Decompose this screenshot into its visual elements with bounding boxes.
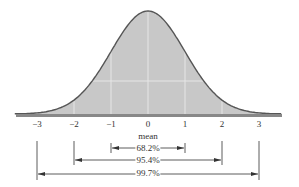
x-tick-label: 0	[146, 119, 151, 129]
x-tick-label: 2	[220, 119, 225, 129]
x-tick-label: −3	[32, 119, 42, 129]
x-axis-label: mean	[138, 131, 158, 141]
label-99-percent: 99.7%	[135, 168, 160, 178]
x-tick-label: −1	[106, 119, 116, 129]
x-tick-label: 3	[257, 119, 262, 129]
label-95-percent: 95.4%	[135, 155, 160, 165]
x-tick-label: 1	[183, 119, 188, 129]
label-68-percent: 68.2%	[135, 143, 160, 153]
x-axis-bar	[16, 114, 282, 117]
gridlines	[37, 12, 259, 114]
x-tick-label: −2	[69, 119, 79, 129]
normal-distribution-chart: −3 −2 −1 0 1 2 3 mean 68.2% 95.4% 99.7%	[0, 0, 299, 187]
